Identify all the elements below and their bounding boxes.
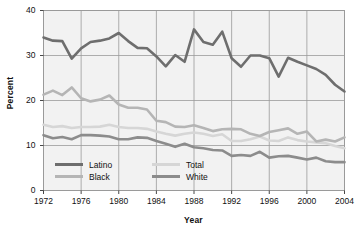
y-tick-label: 20	[6, 95, 36, 105]
y-tick-label: 10	[6, 140, 36, 150]
x-tick-label: 1976	[61, 196, 101, 206]
x-tick-label: 2004	[325, 196, 359, 206]
x-tick-label: 2000	[287, 196, 327, 206]
x-axis-title: Year	[43, 215, 344, 225]
legend-label-black: Black	[89, 172, 110, 182]
y-tick-label: 30	[6, 50, 36, 60]
y-axis-title: Percent	[5, 65, 15, 121]
x-tick-label: 1996	[249, 196, 289, 206]
y-tick-label: 40	[6, 5, 36, 15]
y-tick-label: 0	[6, 185, 36, 195]
legend-label-latino: Latino	[89, 160, 112, 170]
legend-label-total: Total	[186, 160, 204, 170]
x-tick-label: 1988	[174, 196, 214, 206]
x-tick-label: 1980	[99, 196, 139, 206]
x-tick-label: 1992	[212, 196, 252, 206]
legend-label-white: White	[186, 172, 208, 182]
x-tick-label: 1984	[136, 196, 176, 206]
x-tick-label: 1972	[24, 196, 64, 206]
